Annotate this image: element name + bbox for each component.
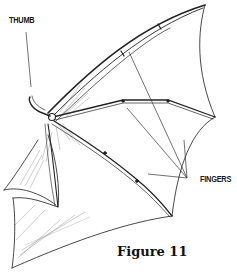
- wing-membrane-outline: [4, 5, 215, 268]
- bat-wing-illustration: [0, 0, 237, 278]
- thumb-pointer-line: [26, 32, 31, 87]
- figure-caption: Figure 11: [117, 244, 187, 259]
- thumb-label: THUMB: [9, 15, 34, 25]
- figure-canvas: THUMB FINGERS Figure 11: [0, 0, 237, 278]
- leading-edge-bone: [48, 5, 205, 121]
- fingers-pointer-lines: [127, 52, 187, 178]
- fingers-label: FINGERS: [200, 174, 231, 184]
- finger-bones: [45, 100, 215, 217]
- wrist-joint: [49, 114, 56, 121]
- thumb-claw: [29, 96, 50, 116]
